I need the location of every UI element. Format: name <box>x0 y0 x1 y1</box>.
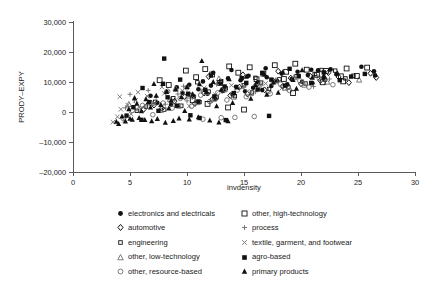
data-point <box>209 83 214 88</box>
data-point <box>363 72 367 76</box>
open-triangle-icon <box>114 251 127 264</box>
legend-item-label: primary products <box>251 268 309 276</box>
data-point <box>263 66 268 71</box>
y-axis: –20,000–10,000010,00020,00030,000 <box>39 18 73 177</box>
data-point <box>230 100 235 105</box>
data-point <box>287 67 291 71</box>
data-point <box>201 79 206 84</box>
data-point <box>183 68 188 73</box>
cross-icon <box>238 236 251 249</box>
data-point <box>232 91 236 95</box>
data-point <box>165 95 169 99</box>
chart-legend: electronics and electricalsautomotiveeng… <box>0 206 428 294</box>
x-tick-label: 30 <box>411 178 419 187</box>
data-point <box>309 67 314 72</box>
legend-item[interactable]: automotive <box>114 221 215 236</box>
data-point <box>163 120 168 125</box>
legend-item-label: other, low-technology <box>127 253 200 261</box>
data-point <box>225 98 230 103</box>
legend-item[interactable]: agro-based <box>238 250 352 265</box>
data-point <box>248 96 253 101</box>
data-point <box>349 74 353 78</box>
data-point <box>196 99 200 103</box>
data-point <box>194 75 199 80</box>
data-point <box>190 91 195 96</box>
scatter-plot-figure: –20,000–10,000010,00020,00030,000 051015… <box>0 0 428 300</box>
legend-item-label: electronics and electricals <box>127 210 215 218</box>
data-point <box>178 77 182 81</box>
legend-item[interactable]: engineering <box>114 235 215 250</box>
legend-item-label: automotive <box>127 224 165 232</box>
y-tick-label: 30,000 <box>43 18 66 27</box>
legend-item-label: process <box>251 224 279 232</box>
legend-item[interactable]: textile, garment, and footwear <box>238 235 352 250</box>
legend-item-label: engineering <box>127 239 168 247</box>
data-point <box>171 118 176 123</box>
data-point <box>240 76 244 80</box>
data-point <box>334 69 337 72</box>
y-tick-label: –20,000 <box>39 168 66 177</box>
data-point <box>212 94 216 98</box>
data-point <box>207 118 212 123</box>
data-point <box>295 70 300 75</box>
data-point <box>176 116 181 121</box>
y-tick-label: –10,000 <box>39 138 66 147</box>
data-point <box>161 82 165 86</box>
data-point <box>198 93 203 98</box>
legend-column-left: electronics and electricalsautomotiveeng… <box>114 206 215 279</box>
data-point <box>244 81 248 85</box>
data-point <box>267 114 271 118</box>
data-point <box>214 103 219 108</box>
data-point <box>346 80 351 86</box>
data-point <box>359 64 364 69</box>
legend-item[interactable]: primary products <box>238 264 352 279</box>
legend-item-label: agro-based <box>251 253 290 261</box>
y-tick-label: 0 <box>62 108 66 117</box>
open-circle-icon <box>114 265 127 278</box>
data-point <box>365 65 370 70</box>
data-point <box>247 65 252 70</box>
data-point <box>309 81 313 85</box>
data-points-layer <box>111 56 379 126</box>
x-tick-label: 5 <box>128 178 132 187</box>
open-square-small-icon <box>114 236 127 249</box>
data-point <box>149 118 154 123</box>
x-tick-label: 10 <box>183 178 191 187</box>
filled-circle-icon <box>114 207 127 220</box>
x-tick-label: 0 <box>71 178 75 187</box>
legend-column-right: other, high-technologyprocesstextile, ga… <box>238 206 352 279</box>
data-point <box>338 78 342 82</box>
data-point <box>151 81 156 86</box>
data-point <box>233 115 238 120</box>
data-point <box>188 113 192 117</box>
x-axis-title: invdensity <box>227 183 261 192</box>
y-axis-title: PRODY–EXPY <box>17 71 26 123</box>
plus-icon <box>238 221 251 234</box>
data-point <box>304 67 309 72</box>
data-point <box>155 116 160 121</box>
legend-item[interactable]: other, resource-based <box>114 264 215 279</box>
data-point <box>137 115 142 120</box>
legend-item[interactable]: electronics and electricals <box>114 206 215 221</box>
data-point <box>209 73 213 77</box>
legend-item[interactable]: process <box>238 221 352 236</box>
data-point <box>242 107 247 112</box>
data-point <box>154 93 159 98</box>
data-point <box>219 115 224 120</box>
legend-item-label: textile, garment, and footwear <box>251 239 352 247</box>
data-point <box>151 112 156 117</box>
data-point <box>182 108 187 113</box>
data-point <box>166 83 171 88</box>
data-point <box>272 63 277 68</box>
legend-item-label: other, resource-based <box>127 268 202 276</box>
data-point <box>226 105 231 110</box>
data-point <box>297 74 301 78</box>
legend-item-label: other, high-technology <box>251 210 327 218</box>
legend-item[interactable]: other, high-technology <box>238 206 352 221</box>
y-tick-label: 10,000 <box>43 78 66 87</box>
data-point <box>293 61 298 66</box>
legend-item[interactable]: other, low-technology <box>114 250 215 265</box>
data-point <box>203 67 208 72</box>
data-point <box>140 86 144 90</box>
data-point <box>283 83 287 87</box>
